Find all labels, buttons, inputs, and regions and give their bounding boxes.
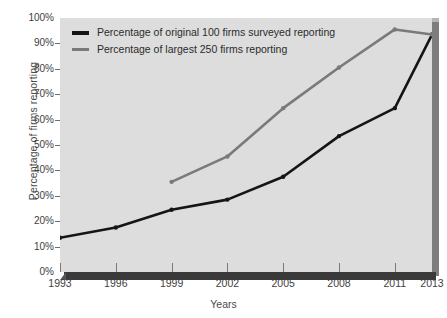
x-axis-title: Years xyxy=(0,298,447,310)
series-line-1 xyxy=(60,35,432,238)
y-tick-label: 60% xyxy=(20,115,54,125)
y-tick-label: 0% xyxy=(20,267,54,277)
legend: Percentage of original 100 firms surveye… xyxy=(72,24,335,58)
x-tick-label: 1996 xyxy=(92,278,140,289)
y-tick-label: 50% xyxy=(20,140,54,150)
legend-item-largest-250[interactable]: Percentage of largest 250 firms reportin… xyxy=(72,41,335,58)
series-point-2 xyxy=(281,106,285,110)
series-point-2 xyxy=(393,27,397,31)
series-point-1 xyxy=(337,134,341,138)
legend-swatch-series-1 xyxy=(72,31,89,35)
legend-swatch-series-2 xyxy=(72,48,89,51)
x-tick-label: 1993 xyxy=(36,278,84,289)
y-tick-label: 30% xyxy=(20,191,54,201)
legend-label-series-2: Percentage of largest 250 firms reportin… xyxy=(97,44,287,55)
legend-item-original-100[interactable]: Percentage of original 100 firms surveye… xyxy=(72,24,335,41)
plot-right-slab xyxy=(432,22,439,276)
x-tick-label: 2002 xyxy=(203,278,251,289)
series-point-1 xyxy=(281,175,285,179)
x-tick-label: 2008 xyxy=(315,278,363,289)
y-tick-label: 70% xyxy=(20,89,54,99)
y-tick-label: 40% xyxy=(20,165,54,175)
x-tick-label: 2005 xyxy=(259,278,307,289)
series-point-2 xyxy=(337,65,341,69)
y-tick-label: 90% xyxy=(20,38,54,48)
series-point-2 xyxy=(169,180,173,184)
series-point-1 xyxy=(393,106,397,110)
x-tick-label: 1999 xyxy=(148,278,196,289)
series-point-1 xyxy=(169,208,173,212)
series-point-1 xyxy=(225,197,229,201)
x-tick-mark xyxy=(432,263,433,272)
series-point-1 xyxy=(114,225,118,229)
x-tick-label: 2013 xyxy=(408,278,447,289)
y-tick-label: 80% xyxy=(20,64,54,74)
y-tick-label: 10% xyxy=(20,242,54,252)
y-tick-label: 100% xyxy=(20,13,54,23)
y-tick-label: 20% xyxy=(20,216,54,226)
line-chart: Percentage of firms reporting 0%10%20%30… xyxy=(0,0,447,318)
legend-label-series-1: Percentage of original 100 firms surveye… xyxy=(97,27,335,38)
y-axis-ticks: 0%10%20%30%40%50%60%70%80%90%100% xyxy=(18,0,54,318)
series-point-2 xyxy=(225,154,229,158)
